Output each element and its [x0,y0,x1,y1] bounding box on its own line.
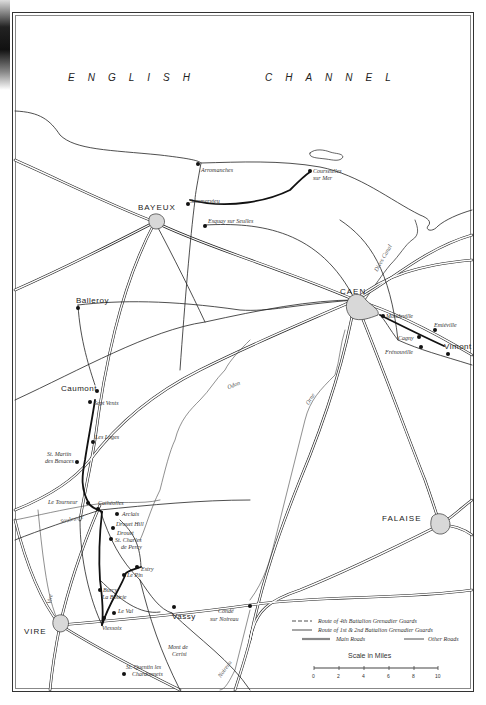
place-label: Drouet [117,530,134,536]
scale-tick: 0 [312,673,315,679]
place-label: Viessoix [102,625,122,631]
sea-label-left: ENGLISH [68,73,203,83]
place-label: Le Pin [127,572,143,578]
battalion-routes [83,172,444,625]
place-label: Vassy [172,613,196,621]
bayeux-shape [149,214,165,229]
place-label: Balleroy [76,297,109,305]
scale-tick: 8 [412,673,415,679]
scale-title: Scale in Miles [348,652,391,659]
caen-shape [346,294,378,319]
legend-item-other-roads: Other Roads [428,636,459,642]
place-label: Cathéolles [98,500,124,506]
sea-label-right: CHANNEL [265,73,404,83]
place-label: Les Loges [95,434,119,440]
place-label: Sommervieu [190,198,220,204]
place-label: Sept Vents [94,400,119,406]
town-label-falaise: FALAISE [382,515,421,523]
place-label: Burcy [103,587,117,593]
place-label: Chardonnets [132,671,163,677]
town-label-vire: VIRE [24,628,47,636]
map-canvas [0,0,486,705]
place-label: Emiéville [434,322,457,328]
place-dots [75,162,450,676]
place-label: St. Quentin les [126,664,161,670]
place-label: Le Val [118,608,133,614]
town-label-caen: CAEN [340,288,366,296]
place-label: Vimont [444,343,472,351]
place-label: de Percy [121,544,142,550]
place-label: Drouet Hill [116,521,144,527]
place-label: Cagny [398,335,414,341]
place-label: St. Charles [115,537,142,543]
place-label: Condé [218,608,234,614]
place-label: Cerisi [172,651,187,657]
place-label: St. Martin [47,451,71,457]
legend-item-main-roads: Main Roads [336,636,365,642]
scale-tick: 4 [362,673,365,679]
legend-item-route4: Route of 4th Battalion Grenadier Guards [318,618,417,624]
place-label: sur Mer [313,175,332,181]
place-label: Arclais [122,511,139,517]
place-label: Courseulles [313,168,342,174]
main-roads-inner [15,160,472,690]
legend-item-route12: Route of 1st & 2nd Battalion Grenadier G… [318,627,433,633]
place-label: Esquay sur Seulles [208,218,253,224]
place-label: Frénouville [385,349,413,355]
town-shapes [53,214,450,632]
scale-tick: 10 [435,673,441,679]
place-label: des Besaces [45,458,74,464]
scale-tick: 6 [387,673,390,679]
town-label-bayeux: BAYEUX [138,204,176,212]
place-label: Mondeville [386,313,413,319]
place-label: sur Noireau [210,616,239,622]
coastline [15,111,472,230]
place-label: Mont de [168,644,188,650]
coastal-island [310,150,343,160]
place-label: Le Tourneur [48,499,78,505]
falaise-shape [431,514,450,534]
place-label: La Bottrie [102,594,127,600]
place-label: Caumont [61,385,97,393]
scale-tick: 2 [337,673,340,679]
vire-shape [53,615,69,632]
place-label: Arromanches [201,167,233,173]
